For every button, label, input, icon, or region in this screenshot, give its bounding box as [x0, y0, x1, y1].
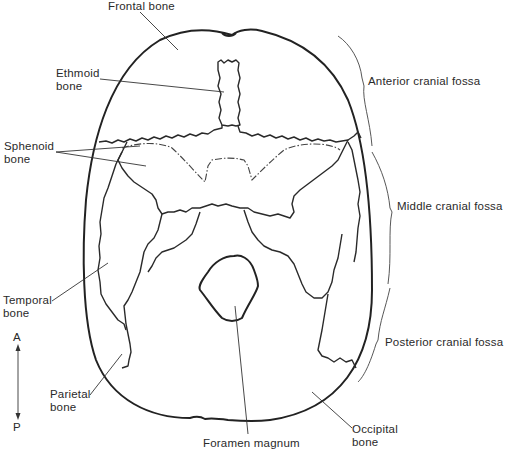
orientation-arrow-up-icon: [16, 344, 21, 351]
label-occipital-line1: Occipital: [352, 423, 398, 436]
label-sphenoid-bone: Sphenoid bone: [4, 140, 54, 166]
leader-parietal: [90, 354, 122, 395]
temporal-suture-right-outer: [348, 142, 360, 262]
brace-middle: [372, 152, 392, 284]
label-parietal-line1: Parietal: [50, 388, 91, 401]
label-middle-cranial-fossa: Middle cranial fossa: [397, 200, 503, 213]
temporal-suture-left-inner: [124, 214, 162, 324]
label-sphenoid-line1: Sphenoid: [4, 140, 54, 153]
leader-sphenoid-2: [56, 152, 146, 166]
parietal-suture-left: [122, 324, 131, 368]
temporal-suture-left-outer: [98, 152, 126, 330]
label-parietal-line2: bone: [50, 401, 91, 414]
skull-outline: [84, 30, 372, 422]
label-ethmoid-line1: Ethmoid: [56, 67, 100, 80]
label-frontal-bone: Frontal bone: [108, 0, 175, 13]
anterior-suture-left: [99, 125, 222, 143]
label-occipital-bone: Occipital bone: [352, 423, 398, 449]
label-temporal-bone: Temporal bone: [3, 294, 52, 320]
label-temporal-line2: bone: [3, 307, 52, 320]
label-anterior-cranial-fossa: Anterior cranial fossa: [368, 75, 480, 88]
anterior-suture-right: [238, 126, 361, 142]
ethmoid-bone-outline: [218, 60, 240, 126]
label-parietal-bone: Parietal bone: [50, 388, 91, 414]
leader-occipital: [312, 392, 352, 428]
label-ethmoid-bone: Ethmoid bone: [56, 67, 100, 93]
leader-foramen: [235, 306, 248, 434]
parietal-suture-right: [318, 294, 356, 368]
orientation-label-anterior: A: [13, 331, 21, 344]
leader-frontal: [140, 12, 178, 50]
foramen-magnum-outline: [199, 256, 258, 321]
label-sphenoid-line2: bone: [4, 153, 54, 166]
label-occipital-line2: bone: [352, 436, 398, 449]
petrous-ridge-left: [148, 212, 200, 272]
sphenoid-temporal-suture-left: [118, 140, 348, 218]
label-posterior-cranial-fossa: Posterior cranial fossa: [385, 336, 503, 349]
orientation-arrow-down-icon: [16, 413, 21, 420]
label-temporal-line1: Temporal: [3, 294, 52, 307]
orientation-label-posterior: P: [13, 421, 21, 434]
sphenoid-dashed-outline: [122, 144, 340, 183]
label-foramen-magnum: Foramen magnum: [203, 437, 300, 450]
leader-sphenoid-1: [56, 146, 140, 152]
brace-posterior: [358, 288, 390, 382]
label-ethmoid-line2: bone: [56, 80, 100, 93]
